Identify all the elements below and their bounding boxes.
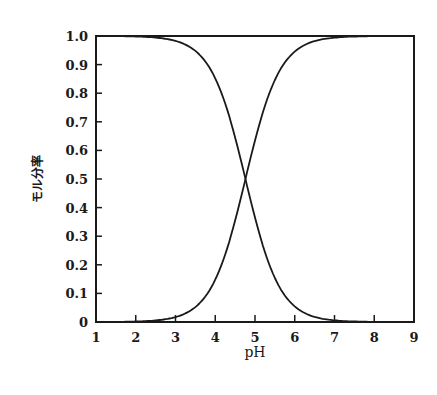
y-tick-label: 0.9: [65, 58, 88, 73]
y-tick-label: 0: [79, 315, 88, 330]
y-tick-label: 0.2: [65, 258, 88, 273]
y-tick-label: 0.7: [65, 115, 88, 130]
x-axis-title: pH: [244, 344, 265, 360]
plot-border: [96, 36, 414, 322]
y-tick-label: 0.6: [65, 143, 88, 158]
y-tick-label: 0.5: [65, 172, 88, 187]
y-tick-label: 0.8: [65, 86, 88, 101]
x-tick-label: 6: [290, 330, 299, 345]
x-tick-label: 7: [330, 330, 339, 345]
x-axis: 123456789: [91, 315, 418, 345]
series-lines: [96, 36, 414, 322]
x-tick-label: 4: [211, 330, 220, 345]
x-tick-label: 1: [91, 330, 100, 345]
plot-frame: [96, 36, 414, 322]
x-tick-label: 9: [409, 330, 418, 345]
base-fraction-curve: [96, 36, 414, 322]
x-tick-label: 3: [171, 330, 180, 345]
y-tick-label: 0.1: [65, 286, 88, 301]
x-tick-label: 2: [131, 330, 140, 345]
mole-fraction-chart: 00.10.20.30.40.50.60.70.80.91.0 12345678…: [0, 0, 437, 395]
y-axis-title: モル分率: [30, 155, 45, 203]
y-tick-label: 0.4: [65, 201, 88, 216]
x-tick-label: 8: [370, 330, 379, 345]
y-tick-label: 0.3: [65, 229, 88, 244]
acid-fraction-curve: [96, 36, 414, 322]
x-tick-label: 5: [250, 330, 259, 345]
y-tick-label: 1.0: [65, 29, 88, 44]
